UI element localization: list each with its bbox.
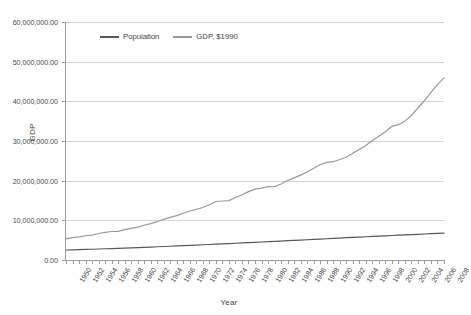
x-axis-tick-label: 1958 — [129, 266, 145, 284]
x-axis-tick-label: 2000 — [403, 266, 419, 284]
x-axis-tick-label: 1974 — [234, 266, 250, 284]
x-axis-tick-label: 1960 — [143, 266, 159, 284]
x-axis-tick-label: 2008 — [455, 266, 471, 284]
x-axis-tick-label: 1952 — [90, 266, 106, 284]
legend-item-population[interactable]: Population — [100, 32, 159, 41]
x-axis-tick-label: 1966 — [182, 266, 198, 284]
x-axis-tick-label: 1956 — [116, 266, 132, 284]
x-axis-tick-label: 1986 — [312, 266, 328, 284]
legend-label-gdp: GDP, $1990 — [196, 32, 237, 41]
chart-legend: Population GDP, $1990 — [100, 32, 238, 41]
x-axis-tick-label: 2004 — [429, 266, 445, 284]
x-axis-tick-label: 1990 — [338, 266, 354, 284]
x-axis-tick-label: 1972 — [221, 266, 237, 284]
legend-swatch-population — [100, 36, 119, 38]
x-axis-tick-label: 2006 — [442, 266, 458, 284]
x-axis-tick-label: 2002 — [416, 266, 432, 284]
x-axis-tick-label: 1998 — [390, 266, 406, 284]
x-axis-tick-label: 1950 — [77, 266, 93, 284]
x-axis-tick-label: 1964 — [169, 266, 185, 284]
x-axis-tick-label: 1988 — [325, 266, 341, 284]
x-axis-tick-label: 1994 — [364, 266, 380, 284]
legend-label-population: Population — [123, 32, 159, 41]
x-axis-tick-label: 1978 — [260, 266, 276, 284]
x-axis-tick-label: 1968 — [195, 266, 211, 284]
x-axis-tick-label: 1970 — [208, 266, 224, 284]
x-axis-tick-label: 1996 — [377, 266, 393, 284]
legend-item-gdp[interactable]: GDP, $1990 — [173, 32, 237, 41]
x-axis-tick-label: 1976 — [247, 266, 263, 284]
legend-swatch-gdp — [173, 36, 192, 38]
x-axis-tick-label: 1954 — [103, 266, 119, 284]
x-axis-tick-label: 1980 — [273, 266, 289, 284]
x-axis-title: Year — [0, 298, 458, 307]
x-axis-tick-label: 1984 — [299, 266, 315, 284]
x-axis-tick-label: 1962 — [156, 266, 172, 284]
x-axis-tick-label: 1992 — [351, 266, 367, 284]
